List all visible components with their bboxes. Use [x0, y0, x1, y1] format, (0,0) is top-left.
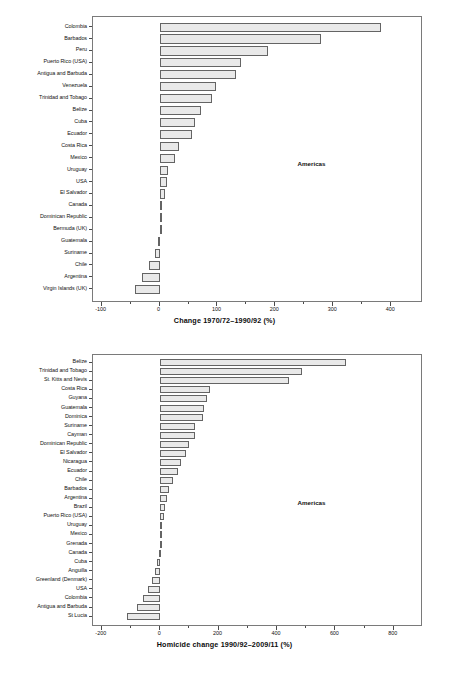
x-tick-label: 400 — [386, 306, 395, 312]
x-tick-minor — [364, 626, 365, 628]
x-axis-title-bottom: Homicide change 1990/92–2009/11 (%) — [0, 640, 449, 649]
x-tick-label: -100 — [95, 306, 106, 312]
x-tick-label: 300 — [328, 306, 337, 312]
x-tick-minor — [245, 302, 246, 304]
x-tick-label: 100 — [212, 306, 221, 312]
x-tick-label: -200 — [95, 630, 106, 636]
x-tick-minor — [361, 302, 362, 304]
x-tick-label: 200 — [213, 630, 222, 636]
x-tick-minor — [130, 302, 131, 304]
x-tick-label: 0 — [158, 630, 161, 636]
x-axis-ticks-bottom: -2000200400600800 — [0, 340, 449, 674]
x-tick-minor — [247, 626, 248, 628]
x-tick-label: 800 — [388, 630, 397, 636]
x-tick-minor — [188, 626, 189, 628]
x-tick-minor — [188, 302, 189, 304]
chart-panel-bottom: Americas BelizeTrinidad and TobagoSt. Ki… — [0, 340, 449, 674]
x-tick-label: 200 — [270, 306, 279, 312]
chart-panel-top: Americas ColombiaBarbadosPeruPuerto Rico… — [0, 0, 449, 340]
x-tick-label: 0 — [157, 306, 160, 312]
x-axis-ticks-top: -1000100200300400 — [0, 0, 449, 340]
x-axis-title-top: Change 1970/72–1990/92 (%) — [0, 316, 449, 325]
x-tick-label: 400 — [271, 630, 280, 636]
x-tick-minor — [305, 626, 306, 628]
x-tick-minor — [303, 302, 304, 304]
x-tick-label: 600 — [330, 630, 339, 636]
x-tick-minor — [130, 626, 131, 628]
